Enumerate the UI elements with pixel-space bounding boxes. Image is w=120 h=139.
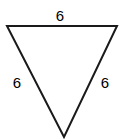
side-length-label-top: 6 xyxy=(0,8,120,23)
side-length-label-right: 6 xyxy=(99,75,111,90)
side-length-label-left: 6 xyxy=(11,75,23,90)
triangle-figure: 6 6 6 xyxy=(0,0,120,139)
